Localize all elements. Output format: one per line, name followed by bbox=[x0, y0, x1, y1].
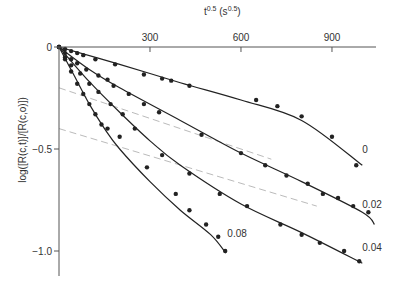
data-point bbox=[81, 53, 85, 57]
data-point bbox=[321, 192, 325, 196]
data-point bbox=[111, 84, 115, 88]
data-point bbox=[275, 104, 279, 108]
x-axis-ticks: 300600900 bbox=[142, 32, 341, 52]
data-point bbox=[254, 98, 258, 102]
data-point bbox=[351, 204, 355, 208]
data-point bbox=[105, 126, 109, 130]
data-point bbox=[84, 67, 88, 71]
data-point bbox=[263, 163, 267, 167]
data-point bbox=[96, 90, 100, 94]
data-point bbox=[78, 71, 82, 75]
data-point bbox=[299, 232, 303, 236]
x-tick-label: 600 bbox=[233, 32, 250, 43]
data-point bbox=[93, 57, 97, 61]
data-point bbox=[69, 49, 73, 53]
dashed-lower-line bbox=[59, 129, 317, 207]
data-point bbox=[160, 153, 164, 157]
series-label-0: 0 bbox=[362, 144, 368, 155]
data-point bbox=[108, 102, 112, 106]
data-point bbox=[105, 77, 109, 81]
data-point bbox=[366, 210, 370, 214]
data-point bbox=[223, 249, 227, 253]
data-point bbox=[81, 92, 85, 96]
data-point bbox=[87, 82, 91, 86]
data-point bbox=[330, 135, 334, 139]
fit-curve-0.08 bbox=[59, 47, 226, 253]
data-point bbox=[342, 249, 346, 253]
x-axis-label: t0.5 (s0.5) bbox=[204, 5, 241, 17]
dashed-upper-line bbox=[59, 88, 271, 159]
data-point bbox=[93, 112, 97, 116]
data-point bbox=[96, 73, 100, 77]
data-point bbox=[160, 76, 164, 80]
data-point bbox=[239, 151, 243, 155]
data-point bbox=[120, 112, 124, 116]
chart-canvas: 300600900 0−0.5−1.0 t0.5 (s0.5) log([R(c… bbox=[0, 0, 395, 283]
data-point bbox=[75, 82, 79, 86]
data-point bbox=[174, 192, 178, 196]
data-point bbox=[199, 133, 203, 137]
data-point bbox=[278, 222, 282, 226]
fit-curve-0.02 bbox=[59, 47, 374, 224]
y-tick-label: 0 bbox=[46, 42, 52, 53]
data-point bbox=[245, 204, 249, 208]
data-point bbox=[63, 51, 67, 55]
data-point bbox=[187, 208, 191, 212]
series-label-0.04: 0.04 bbox=[362, 242, 382, 253]
series-labels: 00.020.040.08 bbox=[227, 144, 382, 253]
series-label-0.08: 0.08 bbox=[227, 228, 247, 239]
data-point bbox=[75, 51, 79, 55]
data-point bbox=[354, 163, 358, 167]
data-point bbox=[284, 173, 288, 177]
y-axis-ticks: 0−0.5−1.0 bbox=[32, 42, 59, 257]
data-point bbox=[63, 57, 67, 61]
data-point bbox=[133, 126, 137, 130]
data-point bbox=[216, 235, 220, 239]
data-point bbox=[218, 192, 222, 196]
data-point bbox=[318, 241, 322, 245]
data-point bbox=[113, 62, 117, 66]
data-point bbox=[169, 78, 173, 82]
data-point bbox=[69, 57, 73, 61]
data-point bbox=[187, 84, 191, 88]
data-point bbox=[306, 181, 310, 185]
data-point bbox=[299, 114, 303, 118]
data-point bbox=[69, 69, 73, 73]
y-tick-label: −0.5 bbox=[32, 144, 52, 155]
data-point bbox=[87, 102, 91, 106]
data-point bbox=[145, 165, 149, 169]
data-points bbox=[57, 45, 371, 264]
data-point bbox=[99, 122, 103, 126]
data-point bbox=[75, 61, 79, 65]
fit-curve-0 bbox=[59, 47, 362, 165]
y-tick-label: −1.0 bbox=[32, 246, 52, 257]
data-point bbox=[187, 171, 191, 175]
data-point bbox=[157, 110, 161, 114]
data-point bbox=[336, 196, 340, 200]
data-point bbox=[127, 92, 131, 96]
data-point bbox=[204, 222, 208, 226]
data-point bbox=[142, 72, 146, 76]
y-axis-label: log([R(c,t)]/[R(c,o)]) bbox=[17, 97, 28, 183]
data-point bbox=[117, 135, 121, 139]
series-label-0.02: 0.02 bbox=[362, 199, 382, 210]
data-point bbox=[142, 102, 146, 106]
x-tick-label: 900 bbox=[324, 32, 341, 43]
x-tick-label: 300 bbox=[142, 32, 159, 43]
data-point bbox=[357, 259, 361, 263]
data-point bbox=[69, 63, 73, 67]
